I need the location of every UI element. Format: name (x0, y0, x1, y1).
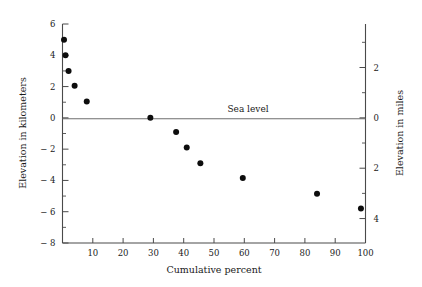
x-tick-label: 30 (148, 248, 159, 258)
data-point (314, 191, 320, 197)
x-tick-label: 90 (330, 248, 341, 258)
y-tick-label: 2 (50, 82, 55, 92)
y-tick-label: 6 (50, 19, 55, 29)
y-tick-label: − 2 (40, 144, 55, 154)
data-point (358, 206, 364, 212)
data-point (173, 129, 179, 135)
hypsometric-curve-figure: − 8− 6− 4− 20246 4202 102030405060708090… (0, 0, 422, 287)
y-axis-tick-labels: − 8− 6− 4− 20246 (40, 19, 55, 248)
y-tick-label: 4 (50, 50, 55, 60)
x-axis-title: Cumulative percent (166, 264, 261, 275)
x-axis-ticks (63, 238, 366, 243)
y2-tick-label: 0 (374, 113, 379, 123)
data-point (61, 37, 67, 43)
x-tick-label: 40 (178, 248, 189, 258)
x-tick-label: 70 (269, 248, 280, 258)
y2-tick-label: 2 (374, 63, 379, 73)
y2-tick-label: 4 (374, 214, 379, 224)
x-axis-tick-labels: 102030405060708090100 (87, 248, 373, 258)
chart-canvas: − 8− 6− 4− 20246 4202 102030405060708090… (0, 0, 422, 287)
x-tick-label: 100 (357, 248, 373, 258)
y-tick-label: − 8 (40, 238, 55, 248)
y-tick-label: − 6 (40, 207, 55, 217)
data-point (147, 115, 153, 121)
y-axis-title: Elevation in kilometers (17, 77, 28, 189)
y-tick-label: 0 (50, 113, 55, 123)
y2-tick-label: 2 (374, 163, 379, 173)
y-tick-label: − 4 (40, 175, 55, 185)
data-point (63, 52, 69, 58)
data-point (72, 83, 78, 89)
sea-level-annotation: Sea level (227, 104, 268, 114)
data-point (184, 145, 190, 151)
x-tick-label: 60 (239, 248, 250, 258)
x-tick-label: 80 (299, 248, 310, 258)
y2-axis-tick-labels: 4202 (374, 63, 379, 224)
y2-axis-title: Elevation in miles (394, 90, 405, 176)
x-tick-label: 50 (209, 248, 220, 258)
data-point (197, 160, 203, 166)
data-point-group (61, 37, 364, 212)
axis-spines (63, 24, 366, 243)
x-tick-label: 10 (87, 248, 98, 258)
x-tick-label: 20 (118, 248, 129, 258)
data-point (240, 175, 246, 181)
data-point (84, 98, 90, 104)
data-point (66, 68, 72, 74)
